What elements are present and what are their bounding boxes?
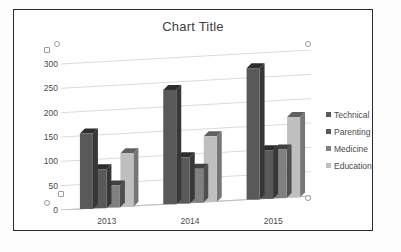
bar-side-face <box>287 144 292 198</box>
x-axis-labels: 201320142015 <box>61 216 311 232</box>
bar-front-face[interactable] <box>163 90 176 204</box>
bar-technical-2013[interactable] <box>80 129 98 209</box>
bar-side-face <box>273 145 278 199</box>
selection-handle-bottom-left-inner[interactable] <box>58 191 64 197</box>
bar-side-face <box>260 63 265 199</box>
bar-side-face <box>203 164 208 203</box>
x-tick-label: 2013 <box>97 216 116 226</box>
chart-object[interactable]: Chart Title 050100150200250300 201320142… <box>13 9 373 231</box>
legend-item-medicine[interactable]: Medicine <box>326 140 396 157</box>
legend-label: Parenting <box>334 127 370 137</box>
x-tick-label: 2015 <box>264 216 283 226</box>
plot-area[interactable]: 050100150200250300 201320142015 <box>61 50 311 210</box>
screenshot-root: Chart Title 050100150200250300 201320142… <box>0 0 401 252</box>
selection-handle-bottom-left[interactable] <box>44 200 50 206</box>
bar-front-face[interactable] <box>247 68 260 199</box>
selection-handle-left-mid[interactable] <box>44 47 50 53</box>
y-axis-labels: 050100150200250300 <box>28 50 58 210</box>
bars-layer[interactable] <box>61 50 311 210</box>
bar-side-face <box>106 164 111 208</box>
bar-technical-2014[interactable] <box>163 85 181 204</box>
chart-title[interactable]: Chart Title <box>14 19 372 34</box>
bar-front-face[interactable] <box>80 134 93 209</box>
bar-side-face <box>133 148 138 207</box>
selection-handle-top-right[interactable] <box>305 41 311 47</box>
legend-label: Education <box>334 161 372 171</box>
y-tick-label: 0 <box>53 205 58 215</box>
y-tick-label: 250 <box>44 83 58 93</box>
legend-item-parenting[interactable]: Parenting <box>326 123 396 140</box>
selection-handle-top-left[interactable] <box>54 41 60 47</box>
y-tick-label: 150 <box>44 132 58 142</box>
legend-swatch-icon <box>326 129 331 134</box>
legend-swatch-icon <box>326 112 331 117</box>
chart-legend[interactable]: TechnicalParentingMedicineEducation <box>326 106 396 174</box>
bar-side-face <box>93 129 98 209</box>
legend-item-technical[interactable]: Technical <box>326 106 396 123</box>
x-tick-label: 2014 <box>181 216 200 226</box>
y-tick-label: 50 <box>49 181 58 191</box>
y-tick-label: 300 <box>44 59 58 69</box>
bar-side-face <box>217 131 222 202</box>
bar-side-face <box>300 112 305 197</box>
bar-technical-2015[interactable] <box>247 63 265 199</box>
bar-side-face <box>190 152 195 203</box>
legend-item-education[interactable]: Education <box>326 157 396 174</box>
selection-handle-bottom-right[interactable] <box>305 195 311 201</box>
legend-swatch-icon <box>326 146 331 151</box>
y-tick-label: 200 <box>44 108 58 118</box>
legend-label: Technical <box>334 110 369 120</box>
legend-label: Medicine <box>334 144 368 154</box>
bar-side-face <box>176 85 181 204</box>
legend-swatch-icon <box>326 163 331 168</box>
y-tick-label: 100 <box>44 156 58 166</box>
